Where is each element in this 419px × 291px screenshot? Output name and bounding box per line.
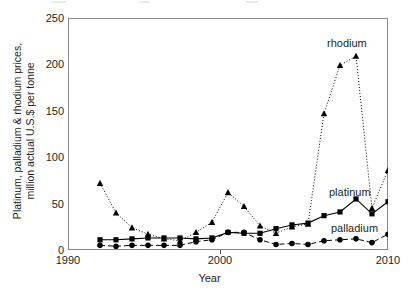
data-point-platinum-1995: [145, 235, 150, 240]
data-point-palladium-1993: [113, 243, 119, 249]
data-point-platinum-2004: [289, 222, 294, 227]
data-point-platinum-2010: [385, 199, 388, 204]
data-point-palladium-2010: [385, 231, 388, 237]
y-axis-title-line-1: Platinum, palladium & rhodium prices,: [11, 21, 24, 241]
scan-artifact-2: [140, 1, 150, 3]
y-axis-tick-labels: 250 200 150 100 50 0: [26, 0, 64, 291]
data-point-platinum-2006: [321, 213, 326, 218]
x-tick-label-2010: 2010: [358, 255, 418, 266]
data-point-rhodium-2006: [321, 110, 327, 116]
data-point-platinum-2005: [305, 220, 310, 225]
y-tick-label-250: 250: [30, 13, 64, 24]
data-point-platinum-1994: [129, 236, 134, 241]
series-line-rhodium: [100, 56, 388, 241]
data-point-rhodium-1993: [113, 209, 119, 215]
data-point-palladium-1998: [193, 239, 199, 245]
data-point-palladium-2001: [241, 230, 247, 236]
chart-figure: Platinum, palladium & rhodium prices, mi…: [0, 0, 419, 291]
data-point-platinum-1993: [113, 237, 118, 242]
series-label-rhodium: rhodium: [327, 37, 367, 49]
data-point-palladium-2000: [225, 230, 231, 236]
data-point-rhodium-1999: [209, 219, 215, 225]
data-point-rhodium-2007: [337, 62, 343, 68]
y-tick-label-150: 150: [30, 106, 64, 117]
data-point-rhodium-2010: [385, 167, 388, 173]
data-point-palladium-1997: [177, 243, 183, 249]
data-point-platinum-1992: [97, 237, 102, 242]
data-point-platinum-2009: [369, 211, 374, 216]
data-point-platinum-1996: [161, 235, 166, 240]
chart-plot: [68, 18, 388, 250]
x-tick-label-2000: 2000: [190, 255, 250, 266]
data-point-platinum-1997: [177, 235, 182, 240]
data-point-rhodium-1998: [193, 229, 199, 235]
scan-artifact-3: [246, 1, 258, 3]
data-point-rhodium-2009: [369, 205, 375, 211]
data-point-platinum-2002: [257, 231, 262, 236]
data-point-rhodium-2001: [241, 203, 247, 209]
data-point-palladium-1994: [129, 243, 135, 249]
x-axis-title: Year: [0, 272, 419, 284]
data-point-rhodium-1994: [129, 224, 135, 230]
y-tick-label-200: 200: [30, 59, 64, 70]
data-point-palladium-1992: [97, 243, 103, 249]
data-point-palladium-2007: [337, 237, 343, 243]
data-point-rhodium-1992: [97, 180, 103, 186]
data-point-rhodium-2008: [353, 53, 359, 59]
data-point-palladium-2006: [321, 238, 327, 244]
data-point-palladium-2002: [257, 237, 263, 243]
y-tick-label-100: 100: [30, 152, 64, 163]
data-point-palladium-2003: [273, 242, 279, 248]
data-point-palladium-1999: [209, 237, 215, 243]
series-label-platinum: platinum: [329, 186, 371, 198]
data-point-palladium-2005: [305, 242, 311, 248]
series-label-palladium: palladium: [331, 222, 378, 234]
y-tick-label-50: 50: [30, 199, 64, 210]
x-tick-label-1990: 1990: [38, 255, 98, 266]
data-point-palladium-2008: [353, 236, 359, 242]
data-point-platinum-2007: [337, 209, 342, 214]
data-point-palladium-1996: [161, 243, 167, 249]
data-point-platinum-2003: [273, 226, 278, 231]
data-point-palladium-2009: [369, 240, 375, 246]
data-point-rhodium-2000: [225, 189, 231, 195]
data-point-palladium-1995: [145, 243, 151, 249]
data-point-palladium-2004: [289, 241, 295, 247]
